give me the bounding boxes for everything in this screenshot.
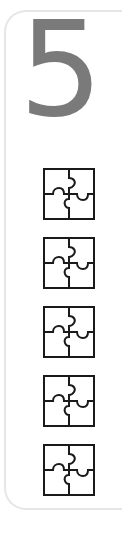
puzzle-icon	[43, 444, 95, 496]
count-number: 5	[0, 4, 122, 134]
puzzle-icon	[43, 375, 95, 427]
puzzle-icon	[43, 306, 95, 358]
puzzle-icon	[43, 237, 95, 289]
puzzle-icon-list	[43, 168, 97, 513]
puzzle-icon	[43, 168, 95, 220]
